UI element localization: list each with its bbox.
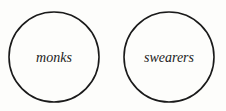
euler-diagram: monks swearers [0, 0, 226, 111]
set-label-monks: monks [36, 50, 72, 65]
set-label-swearers: swearers [144, 50, 195, 65]
